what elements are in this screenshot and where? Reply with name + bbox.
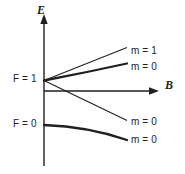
branch-line-m0-lower [44, 125, 127, 140]
branch-label-m0-lower: m = 0 [131, 135, 157, 145]
x-axis-arrowhead-icon [149, 87, 159, 94]
y-axis-E [40, 14, 47, 166]
figure-canvas [0, 0, 185, 174]
branch-line-m0-descending [44, 81, 127, 121]
branch-line-m0-upper [44, 64, 127, 81]
level-label-F0: F = 0 [13, 119, 37, 129]
x-axis-label-B: B [165, 79, 173, 91]
y-axis-label-E: E [37, 4, 45, 16]
zeeman-splitting-figure: E B F = 1 F = 0 m = 1 m = 0 m = 0 m = 0 [0, 0, 185, 174]
branch-label-m1-upper: m = 1 [131, 46, 157, 56]
branch-label-m0-upper: m = 0 [131, 62, 157, 72]
branch-line-m1-upper [44, 48, 127, 81]
branch-label-m0-descending: m = 0 [131, 117, 157, 127]
level-label-F1: F = 1 [13, 74, 37, 84]
